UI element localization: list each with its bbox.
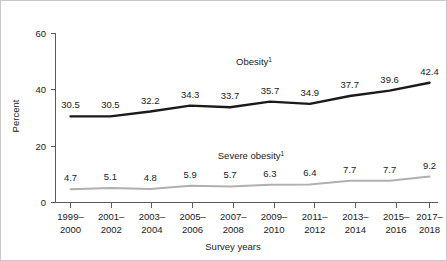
x-tick-label-1-line1: 2001–: [98, 211, 125, 222]
x-axis-tick-labels: 1999– 2000 2001– 2002 2003– 2004 2005– 2…: [57, 211, 443, 235]
data-point-label: 32.2: [141, 95, 160, 106]
data-point-label: 4.7: [64, 172, 77, 183]
y-axis-title: Percent: [10, 99, 21, 132]
x-tick-label-4-line1: 2007–: [220, 211, 247, 222]
data-point-label: 35.7: [261, 85, 280, 96]
x-tick-label-9-line1: 2017–: [416, 211, 443, 222]
x-tick-label-5-line1: 2009–: [261, 211, 288, 222]
y-axis-ticks: 60 40 20 0: [35, 28, 55, 208]
data-point-label: 37.7: [340, 79, 359, 90]
x-axis-title: Survey years: [205, 241, 261, 252]
data-point-label: 39.6: [380, 74, 399, 85]
data-point-label: 6.3: [263, 168, 276, 179]
x-tick-label-3-line1: 2005–: [179, 211, 206, 222]
severe-obesity-value-labels: 4.75.14.85.95.76.36.47.77.79.2: [64, 160, 436, 184]
x-tick-label-2-line1: 2003–: [139, 211, 166, 222]
data-point-label: 5.9: [184, 169, 197, 180]
data-point-label: 5.7: [223, 169, 236, 180]
x-tick-label-0-line2: 2000: [60, 224, 81, 235]
x-tick-label-9-line2: 2018: [419, 224, 440, 235]
x-tick-label-1-line2: 2002: [101, 224, 122, 235]
x-tick-label-2-line2: 2004: [141, 224, 162, 235]
data-point-label: 5.1: [104, 171, 117, 182]
data-point-label: 7.7: [343, 164, 356, 175]
severe-obesity-series-label: Severe obesity1: [218, 150, 285, 162]
x-tick-label-6-line1: 2011–: [302, 211, 328, 222]
data-point-label: 42.4: [420, 66, 439, 77]
y-tick-label-60: 60: [35, 28, 46, 39]
x-axis-ticks: [71, 203, 430, 209]
x-tick-label-7-line1: 2013–: [342, 211, 369, 222]
data-point-label: 30.5: [101, 99, 120, 110]
data-point-label: 33.7: [221, 90, 240, 101]
x-tick-label-8-line2: 2016: [386, 224, 407, 235]
data-point-label: 34.3: [181, 89, 200, 100]
data-point-label: 4.8: [144, 172, 157, 183]
x-tick-label-7-line2: 2014: [345, 224, 366, 235]
y-tick-label-0: 0: [41, 197, 46, 208]
x-tick-label-4-line2: 2008: [223, 224, 244, 235]
obesity-line: [71, 83, 430, 117]
obesity-series-label: Obesity1: [236, 56, 272, 68]
chart-figure: Percent 60 40 20 0: [0, 0, 447, 261]
line-chart: Percent 60 40 20 0: [1, 1, 447, 261]
x-tick-label-6-line2: 2012: [304, 224, 325, 235]
y-tick-label-20: 20: [35, 141, 46, 152]
data-point-label: 30.5: [61, 99, 80, 110]
data-point-label: 9.2: [423, 160, 436, 171]
data-point-label: 34.9: [301, 87, 320, 98]
data-point-label: 6.4: [303, 167, 316, 178]
data-point-label: 7.7: [383, 164, 396, 175]
x-tick-label-5-line2: 2010: [263, 224, 284, 235]
y-tick-label-40: 40: [35, 84, 46, 95]
x-tick-label-8-line1: 2015–: [383, 211, 410, 222]
severe-obesity-line: [71, 177, 430, 190]
x-tick-label-0-line1: 1999–: [57, 211, 84, 222]
x-tick-label-3-line2: 2006: [182, 224, 203, 235]
